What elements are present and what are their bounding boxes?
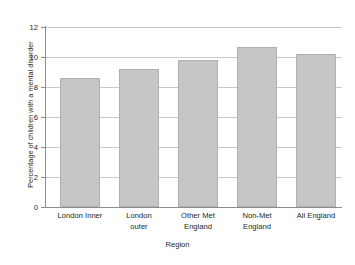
x-tick-label-line: All England	[276, 211, 355, 222]
y-tick-label-0: 0	[22, 203, 38, 212]
x-axis-title: Region	[0, 240, 355, 249]
x-axis-line	[45, 207, 342, 208]
bar-london-outer	[119, 69, 159, 207]
chart-figure: Percentage of children with a mental dis…	[0, 0, 355, 265]
x-tick-label-line: England	[217, 222, 297, 233]
y-tick-label-8: 8	[22, 83, 38, 92]
y-tick-label-4: 4	[22, 143, 38, 152]
y-tick-label-6: 6	[22, 113, 38, 122]
y-tick-label-10: 10	[22, 53, 38, 62]
bar-london-inner	[60, 78, 100, 207]
gridline-12	[46, 27, 342, 28]
bar-non-met-england	[237, 47, 277, 208]
x-tick-label-all-england: All England	[276, 211, 355, 222]
y-axis-tick-labels: 0 2 4 6 8 10 12	[16, 0, 38, 265]
y-tick-label-12: 12	[22, 23, 38, 32]
y-tick-label-2: 2	[22, 173, 38, 182]
bar-other-met-england	[178, 60, 218, 207]
bar-all-england	[296, 54, 336, 207]
plot-area	[46, 27, 342, 207]
